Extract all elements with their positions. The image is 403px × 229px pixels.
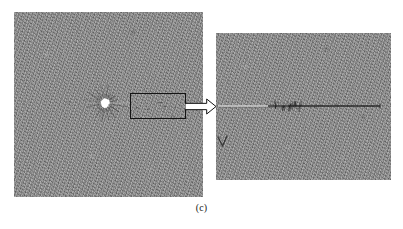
figure-caption: (c)	[0, 202, 403, 213]
v-marker	[218, 136, 227, 146]
roi-interior-specks	[136, 102, 176, 110]
magnify-arrow-icon	[185, 95, 216, 118]
left-panel-wide-field	[14, 12, 203, 197]
left-panel-annotations	[14, 12, 203, 197]
right-panel-magnified-detail	[216, 33, 391, 180]
bright-impact-core	[101, 98, 110, 108]
region-of-interest	[131, 94, 186, 119]
figure-root: (c)	[0, 0, 403, 229]
right-panel-annotations	[216, 33, 391, 180]
magnify-arrow	[185, 99, 216, 114]
